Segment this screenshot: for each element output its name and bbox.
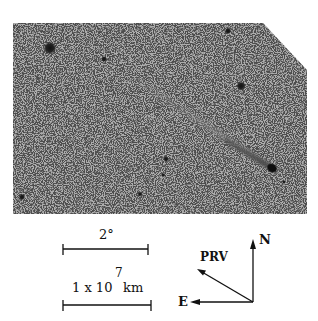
star xyxy=(163,156,168,161)
star xyxy=(19,194,26,201)
star xyxy=(43,41,57,55)
scale-bar-distance xyxy=(63,300,151,311)
compass-north-label: N xyxy=(259,233,271,246)
north-arrowhead-icon xyxy=(250,239,256,249)
star xyxy=(138,192,143,197)
star xyxy=(225,28,232,35)
prv-arrowhead-icon xyxy=(197,269,206,276)
photo-grain xyxy=(13,23,307,214)
distance-scale-unit: km xyxy=(123,281,143,294)
star xyxy=(161,173,165,177)
east-arrowhead-icon xyxy=(190,299,200,305)
star xyxy=(282,180,286,184)
star xyxy=(236,81,246,91)
distance-scale-label: 1 x 10 xyxy=(72,281,112,294)
compass xyxy=(190,239,256,305)
angular-scale-label: 2° xyxy=(99,228,114,241)
comet-figure: 2° 1 x 10 7 km N E PRV xyxy=(0,0,318,321)
scale-bar-angular xyxy=(63,244,148,255)
prv-arrow xyxy=(202,272,253,302)
star xyxy=(101,56,107,62)
distance-scale-exponent: 7 xyxy=(115,267,123,279)
compass-prv-label: PRV xyxy=(200,251,228,263)
compass-east-label: E xyxy=(178,295,188,308)
comet-photograph xyxy=(0,0,318,321)
